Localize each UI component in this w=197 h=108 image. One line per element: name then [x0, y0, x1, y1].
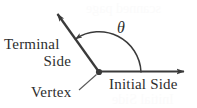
- vertex-label: Vertex: [31, 85, 71, 100]
- angle-diagram: scanned page Initial Side Terminal Side …: [0, 0, 197, 108]
- terminal-side-label-line1: Terminal: [4, 37, 60, 52]
- vertex-leader-line: [79, 75, 97, 91]
- terminal-side-label-line2: Side: [4, 54, 71, 69]
- theta-label: θ: [117, 20, 125, 36]
- initial-side-label: Initial Side: [109, 77, 178, 92]
- vertex-point: [96, 69, 102, 75]
